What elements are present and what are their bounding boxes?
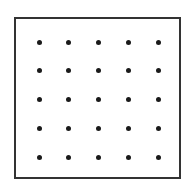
grid-dot [156, 97, 161, 102]
grid-dot [66, 68, 71, 73]
grid-dot [37, 155, 42, 160]
grid-dot [156, 68, 161, 73]
grid-dot [66, 155, 71, 160]
grid-dot [126, 68, 131, 73]
grid-dot [126, 97, 131, 102]
grid-dot [96, 40, 101, 45]
grid-dot [37, 40, 42, 45]
grid-dot [37, 68, 42, 73]
grid-dot [156, 40, 161, 45]
grid-dot [96, 126, 101, 131]
grid-dot [66, 97, 71, 102]
grid-dot [37, 126, 42, 131]
grid-dot [156, 155, 161, 160]
grid-dot [96, 97, 101, 102]
grid-dot [126, 40, 131, 45]
grid-dot [156, 126, 161, 131]
grid-dot [96, 68, 101, 73]
grid-dot [37, 97, 42, 102]
grid-dot [66, 126, 71, 131]
grid-dot [66, 40, 71, 45]
grid-dot [126, 155, 131, 160]
grid-dot [96, 155, 101, 160]
grid-dot [126, 126, 131, 131]
